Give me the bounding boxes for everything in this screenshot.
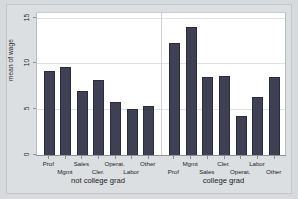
x-tick-mark — [240, 156, 241, 159]
x-axis-label-labor: Labor — [111, 168, 151, 175]
x-tick-mark — [48, 156, 49, 159]
x-tick-mark — [207, 156, 208, 159]
bar-sales — [77, 91, 88, 155]
bar-operat — [110, 102, 121, 155]
x-axis-label-labor: Labor — [237, 160, 277, 167]
panel-not-college-grad — [37, 13, 161, 155]
bar-cler — [93, 80, 104, 155]
x-axis-label-other: Other — [128, 160, 168, 167]
x-tick-mark — [257, 156, 258, 159]
panel-title-college-grad: college grad — [161, 176, 286, 185]
bar-mgmt — [186, 27, 197, 155]
x-tick-mark — [65, 156, 66, 159]
bar-prof — [44, 71, 55, 155]
y-tick-label-5: 5 — [23, 102, 32, 116]
x-tick-mark — [173, 156, 174, 159]
bar-sales — [202, 77, 213, 155]
x-tick-mark — [148, 156, 149, 159]
bar-mgmt — [60, 67, 71, 155]
bar-other — [269, 77, 280, 155]
bar-cler — [219, 76, 230, 155]
x-tick-mark — [224, 156, 225, 159]
plot-area — [36, 12, 286, 156]
bar-prof — [169, 43, 180, 155]
bar-other — [143, 106, 154, 155]
panel-title-not-college-grad: not college grad — [36, 176, 160, 185]
x-tick-mark — [98, 156, 99, 159]
y-tick-label-15: 15 — [23, 11, 32, 25]
x-axis-label-other: Other — [254, 168, 294, 175]
bar-chart-figure: mean of wage 15 10 5 0 — [0, 0, 298, 199]
x-tick-mark — [274, 156, 275, 159]
y-tick-label-10: 10 — [23, 56, 32, 70]
x-tick-mark — [115, 156, 116, 159]
x-axis-line — [36, 155, 286, 156]
panel-college-grad — [162, 13, 287, 155]
bar-labor — [252, 97, 263, 155]
y-axis-title: mean of wage — [7, 25, 19, 95]
x-tick-mark — [81, 156, 82, 159]
x-tick-mark — [190, 156, 191, 159]
bar-operat — [236, 116, 247, 155]
x-tick-mark — [131, 156, 132, 159]
bar-labor — [127, 109, 138, 155]
